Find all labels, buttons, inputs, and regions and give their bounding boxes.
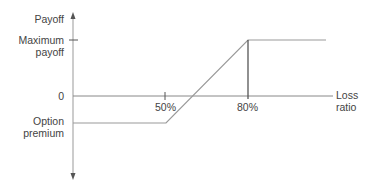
y-axis-label: Payoff — [20, 13, 64, 25]
premium-label-2: premium — [5, 127, 64, 139]
premium-label-1: Option — [5, 115, 64, 127]
y-axis-arrow-down-icon — [71, 173, 76, 180]
x-axis-label-1: Loss — [336, 89, 358, 101]
x-tick-label-80: 80% — [237, 101, 258, 113]
zero-label: 0 — [30, 90, 64, 102]
payoff-line — [73, 40, 326, 123]
max-payoff-label-2: payoff — [5, 46, 64, 58]
x-tick-label-50: 50% — [155, 101, 176, 113]
x-axis-label-2: ratio — [336, 101, 356, 113]
y-axis-arrow-up-icon — [71, 12, 76, 19]
max-payoff-label-1: Maximum — [5, 34, 64, 46]
